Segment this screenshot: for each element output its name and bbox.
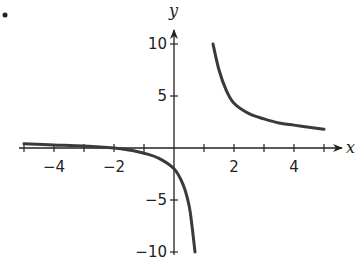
curve-right-branch — [213, 44, 324, 129]
x-tick-label: −2 — [103, 158, 125, 176]
y-tick-label: 5 — [157, 87, 167, 105]
y-tick-label: 10 — [148, 35, 167, 53]
y-tick-label: −10 — [135, 243, 167, 261]
y-axis-label: y — [168, 1, 179, 20]
x-tick-label: −4 — [43, 158, 65, 176]
chart: x y −4 −2 2 4 10 5 −5 −10 — [0, 0, 356, 261]
x-axis-label: x — [346, 138, 355, 157]
x-tick-label: 4 — [289, 158, 299, 176]
bullet-marker — [3, 13, 8, 18]
y-tick-label: −5 — [145, 191, 167, 209]
x-tick-label: 2 — [229, 158, 239, 176]
